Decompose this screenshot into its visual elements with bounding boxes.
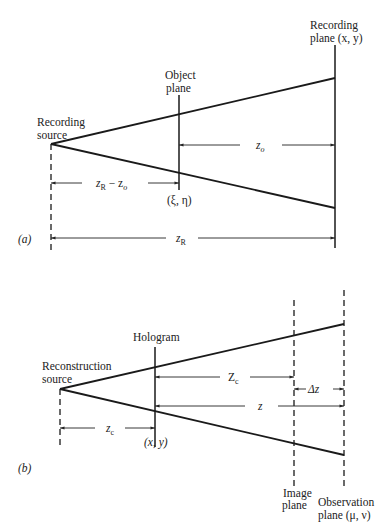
dimension-zr: zR [51, 232, 335, 247]
object-plane-label: Objectplane [165, 69, 196, 95]
part-a-recording-geometry: zo zR − zo zR Recordingsource Objectplan… [18, 19, 363, 250]
recording-plane-label: Recordingplane (x, y) [310, 19, 363, 45]
dimension-delta-z: Δz [294, 383, 344, 395]
svg-text:zR: zR [175, 232, 186, 247]
svg-text:zo: zo [255, 139, 264, 154]
reconstruction-source-label: Reconstructionsource [42, 360, 112, 385]
svg-text:zc: zc [105, 422, 114, 437]
lower-ray-a [51, 144, 335, 208]
upper-ray-a [51, 78, 335, 144]
part-b-tag: (b) [18, 462, 32, 475]
hologram-coordinates-label: (x, y) [144, 436, 168, 449]
dimension-zc: zc [60, 422, 155, 437]
dimension-zo: zo [179, 139, 335, 154]
observation-plane-label: Observationplane (μ, ν) [318, 496, 374, 522]
svg-text:Zc: Zc [228, 371, 239, 386]
dimension-Zc: Zc [155, 371, 294, 386]
svg-text:zR − zo: zR − zo [95, 177, 127, 192]
part-a-tag: (a) [18, 233, 32, 246]
dimension-z: z [155, 400, 344, 412]
part-b-reconstruction-geometry: Zc Δz z zc Reconstructionsource Hologram… [18, 290, 374, 522]
hologram-label: Hologram [133, 331, 180, 344]
image-plane-label: Imageplane [282, 487, 312, 512]
upper-ray-b [60, 324, 344, 389]
lower-ray-b [60, 389, 344, 455]
hologram-geometry-diagram: zo zR − zo zR Recordingsource Objectplan… [0, 0, 387, 526]
object-coordinates-label: (ξ, η) [167, 194, 192, 207]
svg-text:z: z [257, 400, 263, 412]
svg-text:Δz: Δz [307, 383, 320, 395]
dimension-zr-minus-zo: zR − zo [51, 177, 179, 192]
